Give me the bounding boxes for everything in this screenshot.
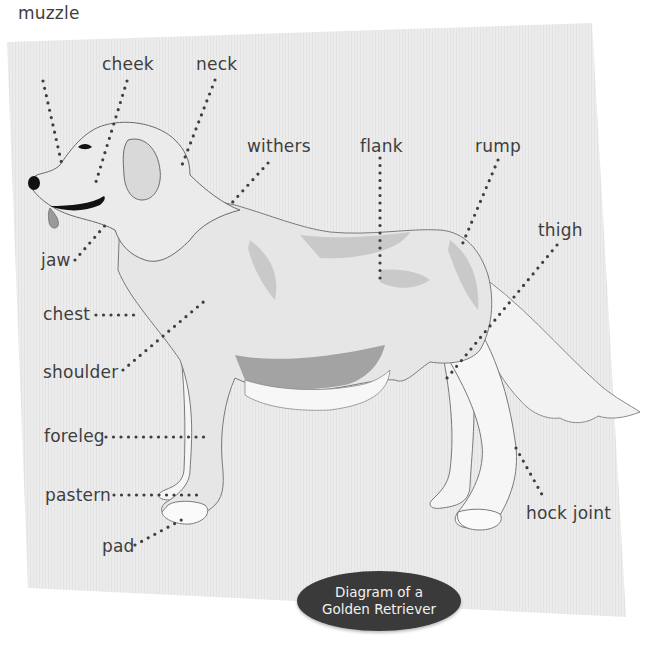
label-foreleg: foreleg bbox=[44, 428, 105, 445]
diagram-canvas: muzzle cheek neck withers flank rump thi… bbox=[0, 0, 655, 660]
label-shoulder: shoulder bbox=[43, 364, 118, 381]
label-pastern: pastern bbox=[45, 487, 111, 504]
dog-nose bbox=[28, 176, 40, 190]
label-flank: flank bbox=[360, 138, 403, 155]
title-badge: Diagram of a Golden Retriever bbox=[297, 571, 461, 631]
dog-rear-paw bbox=[458, 509, 502, 530]
label-rump: rump bbox=[475, 138, 521, 155]
label-chest: chest bbox=[43, 306, 90, 323]
label-cheek: cheek bbox=[102, 56, 154, 73]
label-pad: pad bbox=[102, 538, 135, 555]
title-line-1: Diagram of a bbox=[335, 584, 423, 601]
label-thigh: thigh bbox=[538, 222, 583, 239]
label-hock-joint: hock joint bbox=[526, 505, 611, 522]
title-line-2: Golden Retriever bbox=[322, 601, 436, 618]
label-withers: withers bbox=[247, 138, 311, 155]
label-jaw: jaw bbox=[41, 252, 71, 269]
label-muzzle: muzzle bbox=[18, 5, 80, 22]
label-neck: neck bbox=[196, 56, 237, 73]
diagram-artwork bbox=[0, 0, 655, 660]
